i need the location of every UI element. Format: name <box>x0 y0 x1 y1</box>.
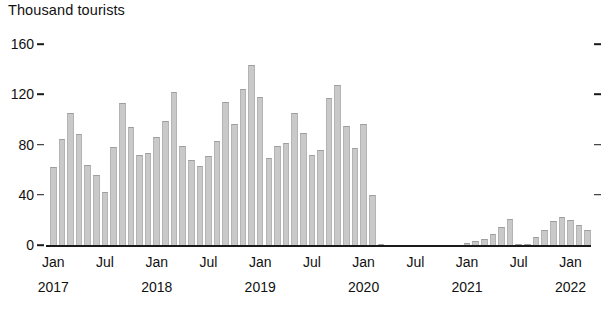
y-tick-mark <box>37 194 44 196</box>
bar <box>309 155 316 245</box>
x-axis-baseline <box>46 245 591 247</box>
y-tick-label: 80 <box>18 137 34 153</box>
x-tick-label-year: 2020 <box>348 279 379 295</box>
y-tick-mark <box>37 144 44 146</box>
bar <box>50 167 57 245</box>
y-tick-mark-right <box>594 194 601 196</box>
x-tick-label-month: Jan <box>559 254 582 270</box>
bar <box>162 121 169 245</box>
x-tick-label-year: 2017 <box>38 279 69 295</box>
y-tick-label: 160 <box>11 36 34 52</box>
bar <box>231 124 238 245</box>
x-tick-label-month: Jul <box>303 254 321 270</box>
bar <box>188 160 195 245</box>
bar <box>326 98 333 245</box>
bar <box>128 127 135 245</box>
x-tick-label-month: Jul <box>406 254 424 270</box>
bar <box>343 126 350 245</box>
tourism-bar-chart: Thousand tourists 04080120160 Jan2017Jul… <box>0 0 606 313</box>
x-tick-label-year: 2021 <box>451 279 482 295</box>
bar <box>317 150 324 245</box>
bar <box>533 237 540 245</box>
bar <box>145 153 152 245</box>
bar <box>179 146 186 245</box>
bar <box>584 230 591 245</box>
y-tick-mark <box>37 43 44 45</box>
bar <box>136 155 143 245</box>
bar <box>300 133 307 245</box>
bar <box>84 165 91 245</box>
bar <box>59 139 66 245</box>
bar <box>119 103 126 245</box>
x-tick-label-year: 2018 <box>141 279 172 295</box>
x-tick-label-year: 2019 <box>245 279 276 295</box>
bar <box>205 156 212 245</box>
x-tick-label-month: Jan <box>456 254 479 270</box>
x-tick-label-month: Jan <box>145 254 168 270</box>
y-tick-mark-right <box>594 93 601 95</box>
y-tick-mark <box>37 244 44 246</box>
y-tick-mark <box>37 93 44 95</box>
x-tick-label-month: Jan <box>249 254 272 270</box>
x-tick-label-month: Jul <box>96 254 114 270</box>
bar <box>490 234 497 245</box>
y-tick-mark-right <box>594 43 601 45</box>
x-tick-label-year: 2022 <box>555 279 586 295</box>
bar <box>171 92 178 245</box>
x-tick-label-month: Jan <box>42 254 65 270</box>
x-tick-label-month: Jan <box>352 254 375 270</box>
y-tick-label: 40 <box>18 187 34 203</box>
bar <box>369 195 376 245</box>
bar <box>274 146 281 245</box>
bar <box>67 113 74 245</box>
bar <box>541 230 548 245</box>
bar <box>93 175 100 245</box>
y-tick-label: 120 <box>11 86 34 102</box>
bar <box>266 158 273 245</box>
y-tick-label: 0 <box>26 237 34 253</box>
bar <box>110 147 117 245</box>
x-tick-label-month: Jul <box>510 254 528 270</box>
bar <box>240 89 247 245</box>
x-tick-label-month: Jul <box>200 254 218 270</box>
bar <box>550 221 557 245</box>
bar <box>291 113 298 245</box>
bar <box>352 148 359 245</box>
y-axis-labels: 04080120160 <box>0 0 34 313</box>
bar <box>76 134 83 245</box>
bar <box>214 141 221 245</box>
bar <box>257 97 264 245</box>
bar <box>498 227 505 245</box>
bar <box>283 143 290 245</box>
y-tick-mark-right <box>594 144 601 146</box>
bar <box>197 166 204 245</box>
bar <box>222 102 229 245</box>
bar <box>576 225 583 245</box>
y-axis-ticks-right <box>594 0 604 313</box>
bar <box>567 220 574 245</box>
bar <box>153 137 160 245</box>
bar <box>559 217 566 245</box>
bar <box>248 65 255 245</box>
bar <box>507 219 514 245</box>
plot-area <box>50 40 590 245</box>
bar <box>102 192 109 245</box>
bar <box>360 124 367 245</box>
bar <box>334 85 341 245</box>
